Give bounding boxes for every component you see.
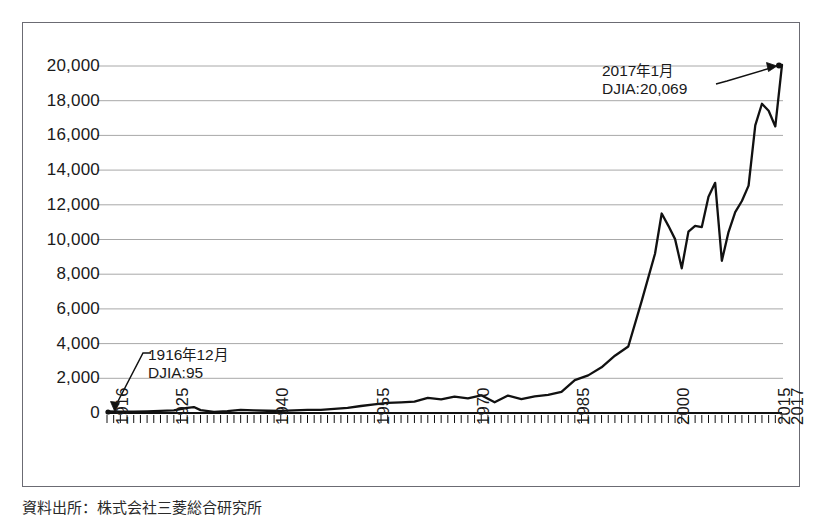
y-axis-tick-label: 18,000: [22, 91, 100, 111]
x-axis-tick-label: 1955: [374, 387, 393, 425]
annotation-start-getsu: 月: [214, 347, 228, 363]
x-axis-tick-label: 1970: [474, 387, 493, 425]
figure-caption: 資料出所：株式会社三菱総合研究所: [22, 496, 262, 517]
y-axis-tick-label: 12,000: [22, 195, 100, 215]
annotation-start-year: 1916: [148, 346, 182, 363]
annotation-end-line1: 2017年1月: [602, 62, 687, 80]
y-axis-tick-label: 10,000: [22, 230, 100, 250]
x-axis-tick-label: 1940: [273, 387, 292, 425]
annotation-start-month: 12: [196, 346, 213, 363]
annotation-start: 1916年12月 DJIA:95: [148, 346, 228, 383]
annotation-start-nen: 年: [182, 347, 196, 363]
y-axis-tick-label: 8,000: [22, 264, 100, 284]
annotation-end-nen: 年: [636, 63, 650, 79]
y-axis-tick-label: 0: [22, 403, 100, 423]
y-axis-tick-label: 6,000: [22, 299, 100, 319]
x-axis-tick-label: 2017: [788, 387, 807, 425]
annotation-end-getsu: 月: [659, 63, 673, 79]
y-axis-tick-label: 4,000: [22, 334, 100, 354]
annotation-end-year: 2017: [602, 62, 636, 79]
gridlines-group: [97, 66, 783, 378]
annotation-start-line2: DJIA:95: [148, 364, 228, 382]
y-axis-tick-label: 14,000: [22, 160, 100, 180]
y-axis-tick-label: 2,000: [22, 368, 100, 388]
x-axis-tick-label: 1916: [113, 387, 132, 425]
annotation-end-month: 1: [650, 62, 659, 79]
y-axis-tick-label: 20,000: [22, 56, 100, 76]
x-axis-tick-label: 1925: [173, 387, 192, 425]
annotation-end-line2: DJIA:20,069: [602, 80, 687, 98]
y-axis-tick-label: 16,000: [22, 125, 100, 145]
annotation-start-line1: 1916年12月: [148, 346, 228, 364]
x-axis-tick-label: 1985: [574, 387, 593, 425]
x-axis-tick-label: 2000: [674, 387, 693, 425]
annotation-end: 2017年1月 DJIA:20,069: [602, 62, 687, 99]
